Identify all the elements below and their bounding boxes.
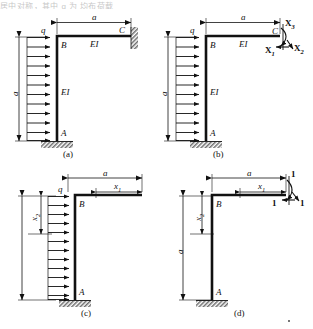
panel-a-joint-a-label: A (61, 129, 67, 138)
panel-d-joint-a-label: A (216, 288, 222, 297)
panel-b-redundant-x1-label: X1 (265, 46, 275, 57)
panel-b-joint-c-label: C (272, 27, 278, 36)
panel-b-drawing (164, 18, 293, 148)
panel-d-horizontal-dim-label: a (247, 169, 252, 178)
panel-d-joint-b-label: B (216, 200, 222, 209)
panel-a-joint-b-label: B (61, 41, 67, 50)
panel-a-vertical-dim-label: a (11, 92, 20, 97)
structural-frame-figure: 居中对称，其中 q 为 均布荷载 (0, 0, 313, 329)
panel-c-caption: (c) (81, 309, 91, 318)
panel-b-caption: (b) (213, 150, 224, 159)
panel-a-drawing (15, 18, 138, 148)
panel-d-unit-load-top-label: 1 (291, 170, 296, 179)
panel-b-redundant-x2-label: X2 (294, 44, 304, 55)
panel-d-x2-dim-label: x2 (194, 214, 205, 221)
panel-b-beam-stiffness-label: EI (239, 40, 248, 49)
panel-d-unit-load-left-label: 1 (272, 199, 277, 208)
panel-a-beam-stiffness-label: EI (90, 40, 99, 49)
panel-a-joint-c-label: C (119, 26, 125, 35)
panel-b-joint-a-label: A (210, 129, 216, 138)
panel-a-load-label: q (41, 26, 46, 35)
panel-d-unit-load-right-label: 1 (300, 199, 305, 208)
panel-c-x2-dim-label: x2 (30, 214, 41, 221)
panel-d-caption: (d) (234, 309, 245, 318)
panel-b-horizontal-dim-label: a (241, 13, 246, 22)
panel-b-vertical-dim-label: a (160, 92, 169, 97)
panel-d-drawing (179, 174, 299, 307)
panel-d-vertical-dim-label: a (176, 250, 185, 255)
panel-a-caption: (a) (63, 150, 73, 159)
panel-c-x1-dim-label: x1 (114, 182, 121, 193)
panel-c-joint-b-label: B (79, 200, 85, 209)
panel-c-horizontal-dim-label: a (103, 169, 108, 178)
panel-a-horizontal-dim-label: a (92, 13, 97, 22)
panel-b-load-label: q (190, 26, 195, 35)
panel-a-column-stiffness-label: EI (61, 88, 70, 97)
panel-b-joint-b-label: B (210, 41, 216, 50)
panel-c-joint-a-label: A (79, 288, 85, 297)
panel-b-column-stiffness-label: EI (210, 88, 219, 97)
panel-d-x1-dim-label: x1 (258, 182, 265, 193)
panel-c-load-label: q (58, 185, 63, 194)
panel-b-redundant-x3-label: X3 (285, 19, 295, 30)
page-artifact-dot (288, 320, 290, 322)
